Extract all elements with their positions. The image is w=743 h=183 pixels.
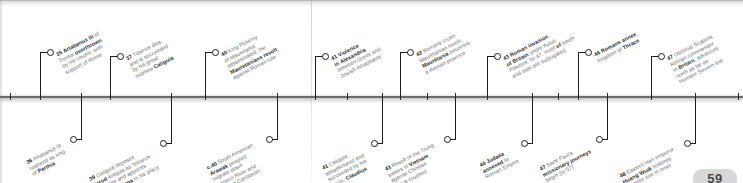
connector-knob bbox=[596, 136, 603, 143]
event-label: 35 Artabanus III ofPersia overthrownby h… bbox=[55, 31, 109, 76]
event-connector-below bbox=[695, 97, 717, 151]
connector-stem bbox=[400, 52, 401, 97]
event-label: 37 Tiberius diesand is succeededby his g… bbox=[125, 37, 175, 80]
connector-knob bbox=[266, 136, 273, 143]
connector-stem bbox=[277, 97, 278, 139]
event-connector-below bbox=[607, 97, 629, 147]
connector-knob bbox=[521, 140, 528, 147]
connector-knob bbox=[117, 53, 124, 60]
connector-knob bbox=[585, 49, 592, 56]
event-label: 39 Caligula deposesHerod Antipas as Tetr… bbox=[88, 146, 160, 183]
timeline-tick bbox=[427, 93, 428, 100]
event-connector-below bbox=[532, 97, 554, 151]
event-connector-below bbox=[277, 97, 299, 147]
event-label: 41 Caligulaassassinated andsucceeded by … bbox=[320, 146, 370, 183]
event-label: 42 Romans crushMauretanian revolt,Mauret… bbox=[415, 28, 474, 75]
connector-stem bbox=[171, 97, 172, 143]
event-label: 47 Ostorius Scapula,Roman commanderin Br… bbox=[666, 33, 726, 86]
connector-knob bbox=[444, 136, 451, 143]
event-connector-below bbox=[382, 97, 404, 151]
connector-stem bbox=[532, 97, 533, 143]
timeline-tick bbox=[10, 93, 11, 100]
timeline-tick bbox=[347, 93, 348, 100]
connector-stem bbox=[578, 52, 579, 97]
timeline-figure: 35 Artabanus III ofPersia overthrownby h… bbox=[0, 0, 743, 183]
connector-stem bbox=[455, 97, 456, 139]
event-label: 46 Romans annexkingdom of Thrace bbox=[593, 31, 641, 64]
connector-stem bbox=[382, 97, 383, 143]
connector-knob bbox=[407, 49, 414, 56]
event-connector-below bbox=[171, 97, 193, 151]
event-connector-below bbox=[81, 97, 103, 147]
event-label: 48 Eastern Han emperorHuang Wudi restore… bbox=[618, 146, 684, 183]
connector-knob bbox=[371, 140, 378, 147]
event-label: 44 Judaeaannexed toRoman Empire bbox=[479, 146, 521, 180]
connector-stem bbox=[205, 52, 206, 97]
event-connector-below bbox=[455, 97, 477, 147]
page-number-badge: 59 bbox=[693, 169, 737, 183]
connector-knob bbox=[160, 140, 167, 147]
connector-knob bbox=[684, 140, 691, 147]
connector-stem bbox=[487, 56, 488, 97]
connector-knob bbox=[212, 49, 219, 56]
connector-knob bbox=[47, 49, 54, 56]
connector-knob bbox=[70, 136, 77, 143]
event-label: 36 Artabanus IIIrestored as kingof Parth… bbox=[25, 142, 69, 177]
event-label: 41 Violencein Alexandriabetween Greek an… bbox=[330, 34, 385, 79]
connector-stem bbox=[110, 56, 111, 97]
event-label: 40 King Ptolemyof Mauretaniaassassinated… bbox=[220, 28, 281, 81]
connector-stem bbox=[40, 52, 41, 97]
connector-stem bbox=[315, 56, 316, 97]
connector-knob bbox=[322, 53, 329, 60]
connector-stem bbox=[651, 56, 652, 97]
timeline-tick bbox=[738, 93, 739, 100]
connector-stem bbox=[607, 97, 608, 139]
connector-stem bbox=[81, 97, 82, 139]
event-label: 43 Roman invasionof Britain under AulusP… bbox=[502, 23, 579, 80]
timeline-tick bbox=[558, 93, 559, 100]
event-label: c.40 South AmericanArawak peoplesmigrate… bbox=[206, 142, 266, 183]
connector-knob bbox=[658, 53, 665, 60]
connector-knob bbox=[494, 53, 501, 60]
page-top-edge-line bbox=[0, 0, 743, 1]
page-top-edge bbox=[0, 0, 743, 7]
connector-stem bbox=[695, 97, 696, 143]
